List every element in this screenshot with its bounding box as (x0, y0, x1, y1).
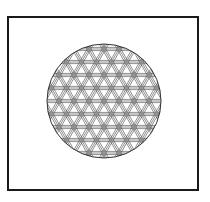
lattice-circle-figure (0, 0, 210, 202)
triangular-lattice-pattern (0, 0, 210, 202)
